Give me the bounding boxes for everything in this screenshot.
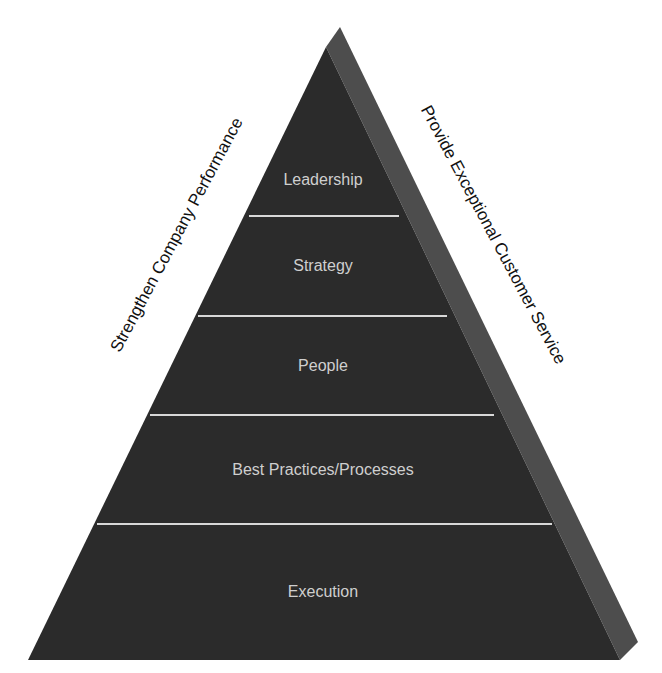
tier-label-leadership: Leadership <box>0 170 654 190</box>
tier-label-strategy: Strategy <box>0 256 654 276</box>
pyramid-graphic <box>0 0 662 673</box>
tier-label-best-practices: Best Practices/Processes <box>0 460 654 480</box>
tier-label-execution: Execution <box>0 582 654 602</box>
